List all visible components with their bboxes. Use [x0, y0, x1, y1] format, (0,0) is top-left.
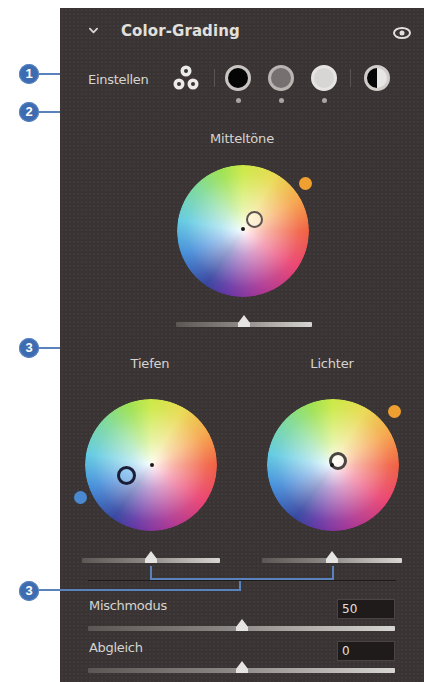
wheel-saturation [177, 165, 309, 297]
midtones-slider-thumb[interactable] [237, 315, 251, 327]
highlights-indicator-dot [322, 98, 327, 103]
blending-label: Mischmodus [89, 598, 167, 613]
shadows-indicator-dot [236, 98, 241, 103]
midtones-hue-chip[interactable] [299, 177, 312, 190]
chevron-down-icon[interactable] [89, 26, 98, 35]
shadows-center-dot [150, 463, 154, 467]
blending-value-field[interactable]: 50 [337, 599, 395, 619]
callout-2: 2 [19, 102, 39, 122]
black-circle-icon[interactable] [225, 65, 251, 91]
balance-label: Abgleich [89, 640, 143, 655]
midtones-color-wheel[interactable] [177, 165, 309, 297]
gray-circle-icon[interactable] [268, 65, 294, 91]
shadows-slider-thumb[interactable] [144, 551, 158, 563]
shadows-label: Tiefen [100, 356, 200, 371]
callout-1: 1 [19, 64, 39, 84]
adjust-label: Einstellen [88, 72, 148, 87]
callout-3-lower: 3 [19, 581, 39, 601]
highlights-hue-chip[interactable] [388, 405, 401, 418]
midtones-indicator-dot [279, 98, 284, 103]
white-circle-icon[interactable] [311, 65, 337, 91]
half-circle-icon[interactable] [364, 65, 390, 91]
midtones-label: Mitteltöne [192, 131, 292, 146]
panel-title: Color-Grading [121, 22, 240, 40]
balance-slider-thumb[interactable] [235, 661, 249, 673]
highlights-luminance-slider[interactable] [262, 558, 402, 563]
three-circles-icon[interactable] [172, 64, 200, 92]
highlights-label: Lichter [282, 356, 382, 371]
callout-3-midtones: 3 [19, 338, 39, 358]
highlights-center-dot [330, 463, 334, 467]
balance-slider[interactable] [88, 668, 395, 673]
highlights-wheel-handle[interactable] [329, 452, 347, 470]
section-divider [88, 580, 396, 581]
midtones-center-dot [241, 227, 245, 231]
mode-separator [350, 69, 351, 87]
midtones-wheel-handle[interactable] [246, 211, 263, 228]
eye-icon[interactable] [393, 27, 411, 39]
blending-slider[interactable] [88, 626, 395, 631]
shadows-wheel-handle[interactable] [117, 466, 136, 485]
panel-header[interactable]: Color-Grading [60, 8, 424, 54]
shadows-luminance-slider[interactable] [82, 558, 220, 563]
balance-value-field[interactable]: 0 [337, 641, 395, 661]
highlights-slider-thumb[interactable] [325, 551, 339, 563]
callout-3-lower-line [39, 589, 241, 591]
mode-separator [214, 69, 215, 87]
shadows-hue-chip[interactable] [74, 491, 87, 504]
midtones-luminance-slider[interactable] [176, 322, 312, 327]
color-grading-panel: Color-Grading Einstellen Mitteltöne Tief… [60, 8, 424, 682]
blending-slider-thumb[interactable] [235, 619, 249, 631]
